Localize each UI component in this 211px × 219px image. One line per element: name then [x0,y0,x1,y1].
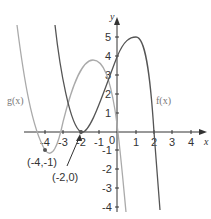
x-tick-label: 3 [169,136,175,148]
point-label-touch-f: (-2,0) [52,171,78,183]
y-tick-label: -4 [102,201,112,213]
x-axis-arrow-icon [199,129,207,135]
g-label: g(x) [7,95,24,107]
y-axis-arrow-icon [114,17,120,25]
point-min-g [43,148,47,152]
f-label: f(x) [156,95,171,107]
point-touch-f [79,130,83,134]
function-graph: -4 -3 -2 -1 0 1 2 3 4 x 5 4 3 2 1 -1 -2 … [0,0,211,219]
y-tick-label: 4 [105,50,111,62]
y-tick-label: 5 [105,31,111,43]
point-label-min-g: (-4,-1) [27,156,57,168]
y-axis-label: y [109,11,115,22]
y-tick-label: -3 [102,182,112,194]
x-tick-label: 4 [188,136,194,148]
y-tick-label: -2 [102,163,112,175]
x-axis-label: x [203,136,209,147]
y-tick-label: 2 [105,88,111,100]
y-tick-label: -1 [102,144,112,156]
x-tick-label: 1 [133,136,139,148]
annotation-arrow [67,138,79,166]
y-tick-label: 1 [105,107,111,119]
